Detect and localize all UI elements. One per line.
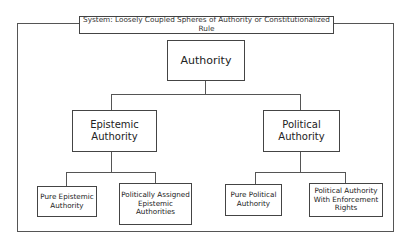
connector-epistemic-down <box>111 152 112 172</box>
connector-to-political <box>300 94 301 110</box>
connector-to-enforcement <box>345 172 346 183</box>
node-label-line: Authority <box>231 200 277 209</box>
connector-political-down <box>300 152 301 172</box>
connector-to-epistemic <box>111 94 112 110</box>
connector-epistemic-horizontal <box>66 172 156 173</box>
node-epistemic-authority: Epistemic Authority <box>72 110 157 152</box>
connector-to-pure-epistemic <box>66 172 67 186</box>
node-label-line: Political <box>278 119 324 131</box>
node-label-line: Rights <box>314 204 379 213</box>
node-label-line: Authorities <box>121 208 190 217</box>
node-pure-political-authority: Pure Political Authority <box>225 184 282 216</box>
node-label-line: Authority <box>40 202 93 211</box>
connector-root-down <box>205 81 206 95</box>
node-pure-epistemic-authority: Pure Epistemic Authority <box>37 186 97 217</box>
node-political-authority-with-enforcement-rights: Political Authority With Enforcement Rig… <box>309 183 383 217</box>
node-authority: Authority <box>167 40 245 81</box>
node-authority-label: Authority <box>181 54 232 67</box>
node-label-line: Epistemic <box>90 119 139 131</box>
connector-political-horizontal <box>255 172 346 173</box>
system-title-box: System: Loosely Coupled Spheres of Autho… <box>79 16 334 34</box>
node-political-authority: Political Authority <box>263 110 340 152</box>
node-label-line: Authority <box>278 131 324 143</box>
connector-to-politically-assigned <box>155 172 156 183</box>
system-title: System: Loosely Coupled Spheres of Autho… <box>80 16 333 34</box>
connector-level1-horizontal <box>111 94 301 95</box>
node-label-line: Authority <box>90 131 139 143</box>
node-politically-assigned-epistemic-authorities: Politically Assigned Epistemic Authoriti… <box>119 183 192 225</box>
connector-to-pure-political <box>255 172 256 184</box>
